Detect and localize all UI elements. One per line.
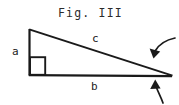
triangle-side-c-line bbox=[29, 29, 172, 75]
figure-title: Fig. III bbox=[58, 6, 123, 20]
label-side-a: a bbox=[12, 45, 19, 58]
lower-arrow-icon bbox=[150, 80, 163, 104]
triangle-diagram: Fig. III a b c bbox=[0, 0, 179, 105]
figure-container: Fig. III a b c bbox=[0, 0, 179, 105]
triangle-side-b-line bbox=[29, 75, 172, 76]
label-side-b: b bbox=[91, 80, 98, 93]
label-side-c: c bbox=[92, 32, 99, 45]
right-angle-marker bbox=[30, 57, 45, 75]
upper-arrow-icon bbox=[150, 38, 175, 59]
